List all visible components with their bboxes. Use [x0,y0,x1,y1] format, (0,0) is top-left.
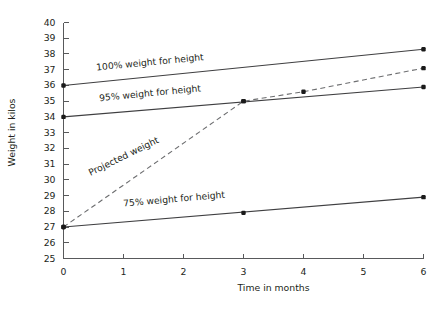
x-axis-ticks: 0123456 [61,254,427,277]
data-series [64,49,424,227]
series-annotation-label: 75% weight for height [123,189,226,209]
chart-container: 25262728293031323334353637383940 0123456… [0,0,445,309]
x-tick-label: 5 [361,266,367,277]
x-tick-label: 0 [61,266,67,277]
x-tick-label: 2 [181,266,187,277]
y-tick-label: 33 [44,127,56,138]
data-point-marker [241,211,245,215]
y-tick-label: 34 [44,111,56,122]
y-tick-label: 26 [44,237,56,248]
y-axis-title: Weight in kilos [6,98,17,166]
y-tick-label: 38 [44,48,56,59]
data-point-marker [421,85,425,89]
y-tick-label: 35 [44,95,56,106]
data-point-marker [421,66,425,70]
x-tick-label: 4 [301,266,307,277]
x-axis-title: Time in months [236,282,309,293]
series-annotation-label: Projected weight [87,134,161,178]
axes [64,23,424,259]
y-tick-label: 30 [44,174,56,185]
data-point-marker [421,47,425,51]
y-tick-label: 37 [44,64,56,75]
y-tick-label: 25 [44,253,56,264]
data-point-marker [61,83,65,87]
x-tick-label: 3 [241,266,247,277]
y-tick-label: 31 [44,158,56,169]
y-tick-label: 39 [44,32,56,43]
x-tick-label: 6 [421,266,427,277]
y-tick-label: 29 [44,190,56,201]
series-annotations: 100% weight for height95% weight for hei… [87,51,226,208]
y-tick-label: 40 [44,17,56,28]
x-tick-label: 1 [121,266,127,277]
y-tick-label: 32 [44,142,56,153]
series-annotation-label: 95% weight for height [99,82,202,103]
weight-for-height-line-chart: 25262728293031323334353637383940 0123456… [0,0,445,309]
data-point-marker [61,115,65,119]
y-tick-label: 36 [44,79,56,90]
data-point-marker [421,195,425,199]
data-point-marker [301,90,305,94]
y-tick-label: 28 [44,205,56,216]
series-annotation-label: 100% weight for height [96,51,205,72]
data-point-marker [61,225,65,229]
y-tick-label: 27 [44,221,56,232]
data-point-marker [241,99,245,103]
